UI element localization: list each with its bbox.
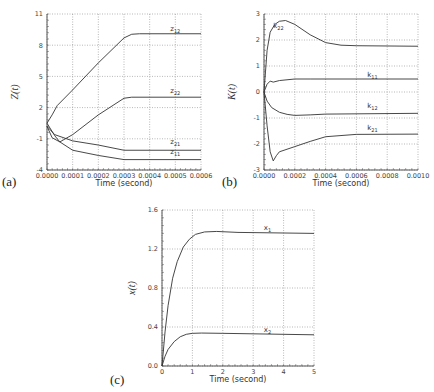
y-tick-label: 0.4 (148, 323, 158, 331)
y-tick-label: 0.8 (148, 284, 158, 292)
y-tick-label: -1 (254, 114, 260, 122)
series-k22 (264, 21, 418, 93)
x-tick-label: 0.0001 (61, 172, 84, 180)
y-tick-label: 1 (256, 62, 260, 70)
chart-c: 0.00.40.81.21.6012345Time (second)x(t)(c… (110, 206, 316, 387)
y-tick-label: -2 (254, 140, 260, 148)
y-axis-title: x(t) (126, 280, 138, 296)
panel-label: (a) (2, 174, 16, 189)
x-tick-label: 0 (160, 368, 164, 376)
chart-b: -3-2-101230.00000.00020.00040.00060.0008… (222, 10, 429, 189)
series-k21 (264, 92, 418, 161)
y-axis-title: K(t) (226, 83, 238, 101)
grid (264, 14, 418, 170)
x-tick-label: 0.0006 (190, 172, 213, 180)
series-label-k21: k21 (367, 124, 377, 133)
panel-label: (b) (222, 174, 237, 189)
y-tick-label: 8 (39, 42, 43, 50)
y-tick-label: 0 (256, 88, 260, 96)
series-x2 (162, 333, 314, 366)
x-axis-title: Time (second) (95, 179, 153, 188)
series-label-z12: z12 (170, 25, 180, 34)
y-tick-label: 2 (39, 104, 43, 112)
series-label-k22: k22 (273, 22, 283, 31)
x-tick-label: 0.0002 (283, 172, 306, 180)
y-tick-label: 5 (39, 73, 43, 81)
series-x1 (162, 231, 314, 366)
series-label-k11: k11 (367, 71, 377, 80)
x-tick-label: 0.0000 (36, 172, 59, 180)
series-k11 (264, 79, 418, 92)
x-tick-label: 0.0000 (253, 172, 276, 180)
y-tick-label: 1.6 (148, 206, 158, 214)
y-tick-label: 1.2 (148, 245, 158, 253)
x-tick-label: 0.0008 (376, 172, 399, 180)
x-tick-label: 0.0005 (164, 172, 187, 180)
series-label-k12: k12 (367, 102, 377, 111)
y-tick-label: 3 (256, 10, 260, 18)
y-tick-label: 2 (256, 36, 260, 44)
x-tick-label: 0.0010 (407, 172, 430, 180)
figure: -4-1258110.00000.00010.00020.00030.00040… (0, 0, 434, 392)
y-tick-label: 11 (35, 10, 43, 18)
y-axis-title: Z(t) (9, 84, 21, 100)
x-tick-label: 4 (282, 368, 286, 376)
y-tick-label: -1 (37, 135, 43, 143)
x-axis-title: Time (second) (209, 375, 267, 384)
x-axis-title: Time (second) (312, 179, 370, 188)
x-tick-label: 5 (312, 368, 316, 376)
series-label-z22: z22 (170, 87, 180, 96)
series-k12 (264, 92, 418, 115)
y-tick-label: 0.0 (148, 362, 158, 370)
chart-a: -4-1258110.00000.00010.00020.00030.00040… (2, 10, 212, 189)
x-tick-label: 1 (190, 368, 194, 376)
series-label-x1: x1 (264, 224, 271, 233)
panel-label: (c) (110, 372, 124, 387)
